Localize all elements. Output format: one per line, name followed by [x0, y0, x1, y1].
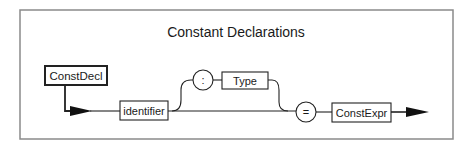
- constdecl-start-node: ConstDecl: [45, 66, 107, 85]
- colon-label: :: [201, 74, 204, 86]
- type-node: Type: [222, 72, 268, 89]
- identifier-node: identifier: [120, 101, 168, 120]
- syntax-diagram: Constant Declarations ConstDecl identifi…: [0, 0, 474, 149]
- equals-label: =: [303, 106, 309, 118]
- constdecl-label: ConstDecl: [49, 70, 102, 82]
- colon-node: :: [193, 70, 213, 90]
- equals-node: =: [296, 102, 316, 122]
- constexpr-label: ConstExpr: [336, 107, 388, 119]
- constexpr-node: ConstExpr: [332, 103, 391, 122]
- identifier-label: identifier: [123, 105, 165, 117]
- diagram-title: Constant Declarations: [167, 24, 305, 40]
- type-label: Type: [233, 75, 257, 87]
